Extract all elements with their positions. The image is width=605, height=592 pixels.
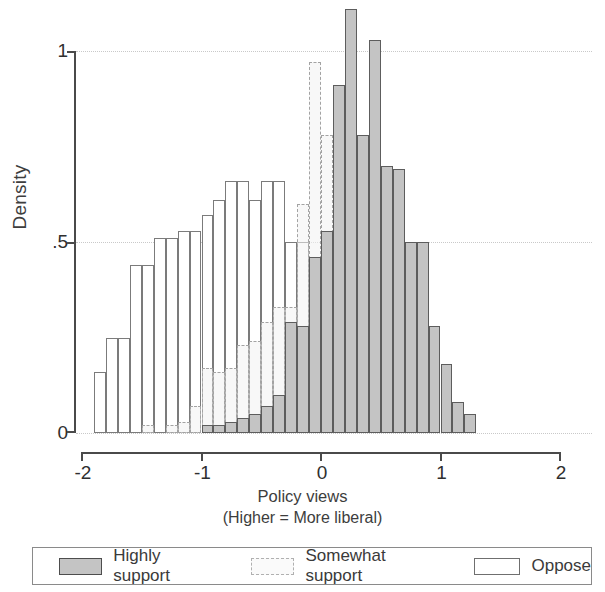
histogram-bar [106, 338, 118, 434]
legend: Highly support Somewhat support Oppose [32, 547, 592, 585]
histogram-bar [261, 406, 273, 433]
legend-label-somewhat-support: Somewhat support [305, 546, 438, 586]
x-axis-label: Policy views (Higher = More liberal) [0, 486, 605, 528]
histogram-bar [142, 265, 154, 433]
x-tick-mark-1 [440, 452, 442, 461]
histogram-bar [429, 326, 441, 433]
x-tick-mark-2 [559, 452, 561, 461]
x-tick-label-2: 2 [541, 462, 581, 484]
x-axis-label-main: Policy views [258, 487, 348, 505]
histogram-bar [381, 166, 393, 433]
histogram-bar [213, 425, 225, 433]
histogram-bar [297, 326, 309, 433]
legend-label-oppose: Oppose [531, 556, 591, 576]
histogram-bar [166, 425, 178, 433]
histogram-bar [237, 418, 249, 433]
legend-item-highly-support[interactable]: Highly support [59, 546, 215, 586]
histogram-bar [441, 364, 453, 433]
histogram-bar [273, 395, 285, 433]
histogram-bar [213, 372, 225, 433]
histogram-bar [393, 169, 405, 433]
legend-item-oppose[interactable]: Oppose [474, 556, 591, 576]
x-tick-label-1: 1 [422, 462, 462, 484]
histogram-bar [154, 238, 166, 433]
legend-swatch-oppose [474, 558, 520, 575]
legend-swatch-somewhat-support [251, 558, 294, 575]
histogram-bars [0, 0, 605, 460]
histogram-bar [118, 338, 130, 434]
histogram-bar [202, 368, 214, 433]
x-tick-mark-0 [320, 452, 322, 461]
histogram-bar [190, 231, 202, 433]
x-tick-mark--1 [201, 452, 203, 461]
histogram-bar [452, 402, 464, 433]
histogram-bar [333, 85, 345, 433]
histogram-bar [309, 257, 321, 433]
histogram-bar [321, 231, 333, 433]
density-histogram-figure: Density 1 .5 0 -2-1012 Policy views (Hig… [0, 0, 605, 592]
histogram-bar [166, 238, 178, 433]
histogram-bar [345, 9, 357, 433]
legend-item-somewhat-support[interactable]: Somewhat support [251, 546, 438, 586]
histogram-bar [202, 425, 214, 433]
histogram-bar [464, 414, 476, 433]
x-tick-mark--2 [81, 452, 83, 461]
legend-label-highly-support: Highly support [113, 546, 215, 586]
x-tick-label--2: -2 [63, 462, 103, 484]
histogram-bar [225, 422, 237, 433]
histogram-bar [142, 425, 154, 433]
x-tick-label--1: -1 [183, 462, 223, 484]
histogram-bar [178, 422, 190, 433]
x-tick-label-0: 0 [302, 462, 342, 484]
histogram-bar [249, 414, 261, 433]
x-axis-label-sub: (Higher = More liberal) [0, 507, 605, 528]
histogram-bar [130, 265, 142, 433]
histogram-bar [357, 135, 369, 433]
histogram-bar [94, 372, 106, 433]
histogram-bar [417, 242, 429, 433]
histogram-bar [190, 406, 202, 433]
legend-swatch-highly-support [59, 558, 102, 575]
histogram-bar [178, 231, 190, 433]
histogram-bar [369, 40, 381, 433]
histogram-bar [405, 242, 417, 433]
histogram-bar [285, 322, 297, 433]
